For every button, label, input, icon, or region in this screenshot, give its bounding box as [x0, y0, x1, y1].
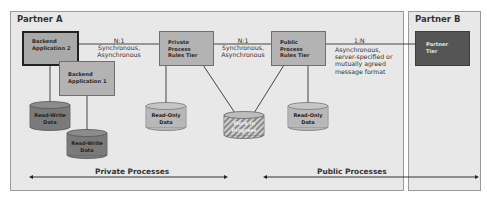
read-only-data-public: Read-Only Data [288, 112, 328, 126]
read-write-data-1: Read-Write Data [30, 112, 70, 126]
rw1-line2: Data [30, 119, 70, 125]
private-rules-line3: Rules Tier [168, 52, 213, 59]
private-public-mode-1: Synchronous, [214, 44, 272, 51]
backend-application-1: Backend Application 1 [59, 61, 115, 96]
public-process-rules-tier: Public Process Rules Tier [271, 31, 326, 66]
private-public-mode-2: Asynchronous [214, 51, 272, 58]
backend-private-mode-1: Synchronous, [80, 44, 158, 51]
public-partner-connection-label: Asynchronous, server-specified or mutual… [335, 46, 392, 75]
private-process-rules-tier: Private Process Rules Tier [159, 31, 214, 66]
work-in-progress: Work in Progress [224, 120, 264, 134]
public-processes-label: Public Processes [317, 167, 387, 176]
read-write-data-2: Read-Write Data [67, 140, 107, 154]
backend-app-1-line2: Application 1 [68, 78, 114, 85]
read-only-data-private: Read-Only Data [146, 112, 186, 126]
rw2-line1: Read-Write [67, 140, 107, 146]
public-partner-mode-4: message format [335, 68, 392, 75]
wip-line2: Progress [224, 127, 264, 133]
ro-private-line1: Read-Only [146, 112, 186, 118]
ro-private-line2: Data [146, 119, 186, 125]
public-rules-line3: Rules Tier [280, 52, 325, 59]
private-processes-label: Private Processes [95, 167, 169, 176]
public-partner-mode-2: server-specified or [335, 53, 392, 60]
backend-app-2-line2: Application 2 [32, 45, 77, 52]
rw1-line1: Read-Write [30, 112, 70, 118]
connector-lines [0, 0, 487, 199]
backend-private-cardinality: N:1 [80, 37, 158, 44]
rw2-line2: Data [67, 147, 107, 153]
ro-public-line1: Read-Only [288, 112, 328, 118]
partner-tier: Partner Tier [415, 31, 470, 66]
public-partner-mode-3: mutually agreed [335, 60, 392, 67]
public-partner-mode-1: Asynchronous, [335, 46, 392, 53]
private-public-cardinality: N:1 [214, 37, 272, 44]
wip-line1: Work in [224, 120, 264, 126]
private-public-connection-label: N:1 Synchronous, Asynchronous [214, 37, 272, 59]
partner-tier-line2: Tier [426, 48, 469, 55]
ro-public-line2: Data [288, 119, 328, 125]
public-partner-cardinality: 1:N [354, 37, 365, 44]
backend-private-mode-2: Asynchronous [80, 51, 158, 58]
backend-private-connection-label: N:1 Synchronous, Asynchronous [80, 37, 158, 59]
